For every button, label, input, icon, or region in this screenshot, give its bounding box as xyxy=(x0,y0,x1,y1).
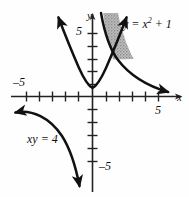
curve-label-parabola: y = x2 + 1 xyxy=(123,17,172,30)
x-axis-label: x xyxy=(177,92,182,103)
x-tick-label-minus-5: –5 xyxy=(13,76,25,88)
graph-figure: y = x2 + 1 xy = 4 y x 5 –5 5 –5 xyxy=(0,0,189,197)
curve-label-hyperbola: xy = 4 xyxy=(27,133,58,145)
y-axis-label: y xyxy=(87,10,92,21)
y-tick-label-5: 5 xyxy=(76,25,82,37)
x-tick-label-5: 5 xyxy=(155,104,161,116)
y-tick-label-minus-5: –5 xyxy=(99,160,111,172)
curve-hyperbola-branch-3 xyxy=(16,112,80,186)
